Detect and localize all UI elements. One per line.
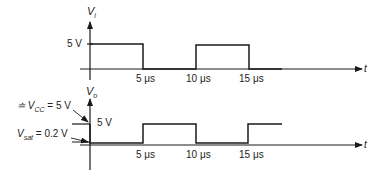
tick-label-15us-top: 15 μs (239, 74, 264, 84)
vo-axis-label: Vo (86, 86, 97, 97)
vsat-pointer-arrow (71, 138, 88, 142)
input-signal (90, 44, 282, 69)
vi-axis-label: Vi (87, 6, 96, 17)
tick-label-10us-bottom: 10 μs (186, 150, 211, 160)
tick-label-10us-top: 10 μs (186, 74, 211, 84)
output-signal (90, 124, 282, 143)
tick-label-15us-bottom: 15 μs (239, 150, 264, 160)
t-axis-label-top: t (364, 64, 367, 74)
vcc-annotation: ≐ VCC = 5 V (17, 101, 71, 111)
output-waveform-plot (71, 99, 362, 170)
tick-label-5us-bottom: 5 μs (136, 150, 155, 160)
vo-level-label: 5 V (97, 118, 112, 128)
vcc-pointer-arrow (73, 110, 88, 122)
tick-label-5us-top: 5 μs (136, 74, 155, 84)
t-axis-label-bottom: t (364, 140, 367, 150)
vsat-annotation: Vsat = 0.2 V (17, 129, 68, 139)
waveform-diagram (0, 0, 384, 174)
vi-level-label: 5 V (67, 39, 82, 49)
input-waveform-plot (80, 22, 362, 80)
